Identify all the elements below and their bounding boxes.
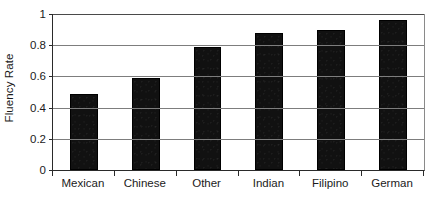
bars-layer (53, 14, 424, 170)
x-axis-tickmark (361, 170, 362, 176)
y-axis-tickmark (49, 76, 53, 77)
bar-slot (177, 14, 239, 170)
gridline (53, 76, 424, 77)
y-axis-tick-label: 0.8 (30, 39, 46, 51)
y-axis-tick-label: 1 (40, 8, 46, 20)
y-axis-title: Fluency Rate (0, 0, 18, 175)
y-axis-tick-label: 0.6 (30, 70, 46, 82)
bar (255, 33, 283, 170)
bar (70, 94, 98, 170)
x-axis-tickmark (238, 170, 239, 176)
bar (379, 20, 407, 170)
x-axis-category-label: German (361, 177, 423, 197)
gridline (53, 108, 424, 109)
bar (132, 78, 160, 170)
y-axis-tickmark (49, 108, 53, 109)
bar-slot (53, 14, 115, 170)
x-axis-category-label: Filipino (299, 177, 361, 197)
bar-slot (362, 14, 424, 170)
y-axis-tick-labels: 00.20.40.60.81 (17, 14, 46, 170)
y-axis-tick-label: 0 (40, 164, 46, 176)
gridline (53, 139, 424, 140)
bar (317, 30, 345, 170)
y-axis-tickmark (49, 14, 53, 15)
x-axis-tickmark (52, 170, 53, 176)
y-axis-tickmark (49, 45, 53, 46)
bar-slot (238, 14, 300, 170)
bar-slot (115, 14, 177, 170)
plot-area (52, 14, 425, 171)
x-axis-tickmarks (52, 170, 423, 176)
x-axis-category-labels: MexicanChineseOtherIndianFilipinoGerman (52, 177, 423, 197)
x-axis-tickmark (114, 170, 115, 176)
gridline (53, 14, 424, 15)
y-axis-tick-label: 0.4 (30, 102, 46, 114)
x-axis-category-label: Mexican (52, 177, 114, 197)
y-axis-title-label: Fluency Rate (3, 53, 15, 122)
bar-chart-figure: Fluency Rate 00.20.40.60.81 MexicanChine… (0, 0, 433, 201)
y-axis-tick-label: 0.2 (30, 133, 46, 145)
x-axis-category-label: Other (176, 177, 238, 197)
x-axis-tickmark (176, 170, 177, 176)
x-axis-category-label: Indian (237, 177, 299, 197)
x-axis-tickmark (299, 170, 300, 176)
x-axis-category-label: Chinese (114, 177, 176, 197)
gridline (53, 45, 424, 46)
y-axis-tickmark (49, 139, 53, 140)
bar-slot (300, 14, 362, 170)
x-axis-tickmark (423, 170, 424, 176)
